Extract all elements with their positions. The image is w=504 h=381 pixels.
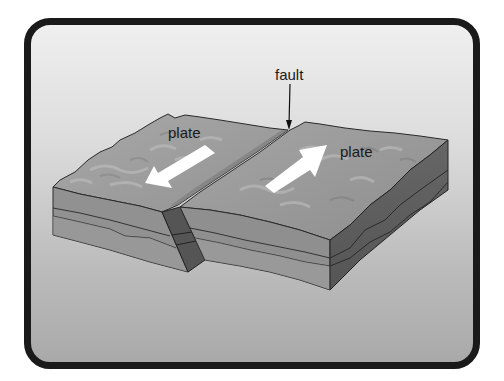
fault-label: fault bbox=[275, 66, 304, 83]
plate-label-left: plate bbox=[168, 124, 201, 141]
fault-pointer-arrow-icon bbox=[286, 84, 292, 130]
plate-label-right: plate bbox=[340, 143, 373, 160]
fault-block-diagram: fault plate plate bbox=[0, 0, 504, 381]
